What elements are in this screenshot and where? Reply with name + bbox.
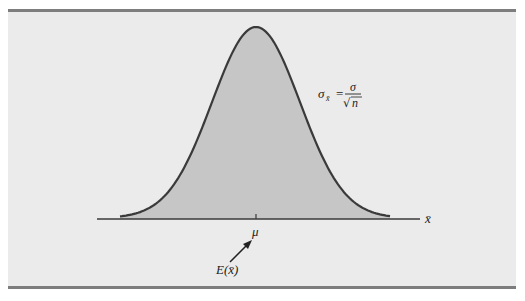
normal-curve-area bbox=[120, 27, 390, 219]
sampling-distribution-figure: x̄ μ E(x̄) σ x̄ = σ √ n bbox=[0, 0, 525, 301]
standard-error-formula: σ x̄ = σ √ n bbox=[318, 80, 362, 110]
axis-label-xbar: x̄ bbox=[424, 211, 431, 226]
svg-text:σ: σ bbox=[350, 80, 357, 94]
svg-text:√: √ bbox=[343, 96, 351, 110]
expectation-arrow bbox=[230, 244, 248, 262]
mean-label: μ bbox=[251, 224, 259, 239]
svg-text:x̄: x̄ bbox=[325, 94, 330, 103]
svg-text:σ: σ bbox=[318, 86, 325, 101]
expectation-label: E(x̄) bbox=[215, 262, 238, 277]
svg-text:n: n bbox=[352, 96, 358, 110]
